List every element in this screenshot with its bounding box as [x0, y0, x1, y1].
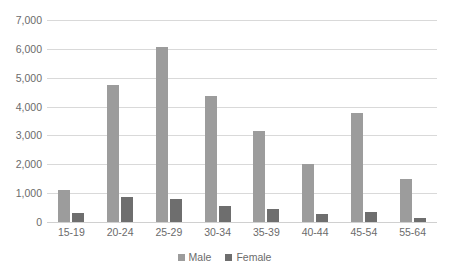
x-axis: 15-1920-2425-2930-3435-3940-4445-5455-64 [47, 226, 437, 244]
y-tick-label: 3,000 [0, 130, 42, 140]
x-tick-label: 45-54 [340, 226, 389, 239]
x-tick-label: 25-29 [145, 226, 194, 239]
legend-item-male[interactable]: Male [178, 252, 212, 263]
legend-swatch-icon [178, 254, 185, 261]
bar-male-15-19 [58, 190, 70, 222]
bar-male-20-24 [107, 85, 119, 222]
bar-female-20-24 [121, 197, 133, 222]
bar-male-25-29 [156, 47, 168, 222]
x-tick-label: 30-34 [193, 226, 242, 239]
bar-group [193, 20, 242, 222]
bar-female-55-64 [414, 218, 426, 222]
legend-label: Male [189, 252, 212, 263]
y-tick-label: 6,000 [0, 44, 42, 54]
bar-male-40-44 [302, 164, 314, 222]
legend-label: Female [236, 252, 271, 263]
bar-group [340, 20, 389, 222]
bar-male-35-39 [253, 131, 265, 222]
bar-group [47, 20, 96, 222]
x-tick-label: 55-64 [388, 226, 437, 239]
x-tick-label: 20-24 [96, 226, 145, 239]
gridline [47, 222, 437, 223]
y-axis: 01,0002,0003,0004,0005,0006,0007,000 [0, 20, 42, 222]
x-tick-label: 15-19 [47, 226, 96, 239]
bar-female-35-39 [267, 209, 279, 222]
y-tick-label: 4,000 [0, 102, 42, 112]
bar-female-45-54 [365, 212, 377, 222]
bar-female-15-19 [72, 213, 84, 222]
x-tick-label: 35-39 [242, 226, 291, 239]
bar-male-55-64 [400, 179, 412, 222]
bar-chart: 01,0002,0003,0004,0005,0006,0007,000 15-… [0, 0, 449, 273]
x-tick-label: 40-44 [291, 226, 340, 239]
y-tick-label: 1,000 [0, 188, 42, 198]
chart-legend: MaleFemale [0, 252, 449, 263]
legend-swatch-icon [225, 254, 232, 261]
legend-item-female[interactable]: Female [225, 252, 271, 263]
bar-group [242, 20, 291, 222]
plot-area [47, 20, 437, 222]
bar-group [388, 20, 437, 222]
bar-female-25-29 [170, 199, 182, 222]
bar-female-40-44 [316, 214, 328, 222]
bar-female-30-34 [219, 206, 231, 222]
y-tick-label: 2,000 [0, 159, 42, 169]
y-tick-label: 0 [0, 217, 42, 227]
bar-group [145, 20, 194, 222]
y-tick-label: 7,000 [0, 15, 42, 25]
bar-group [291, 20, 340, 222]
bar-male-30-34 [205, 96, 217, 222]
bar-group [96, 20, 145, 222]
bar-male-45-54 [351, 113, 363, 222]
y-tick-label: 5,000 [0, 73, 42, 83]
